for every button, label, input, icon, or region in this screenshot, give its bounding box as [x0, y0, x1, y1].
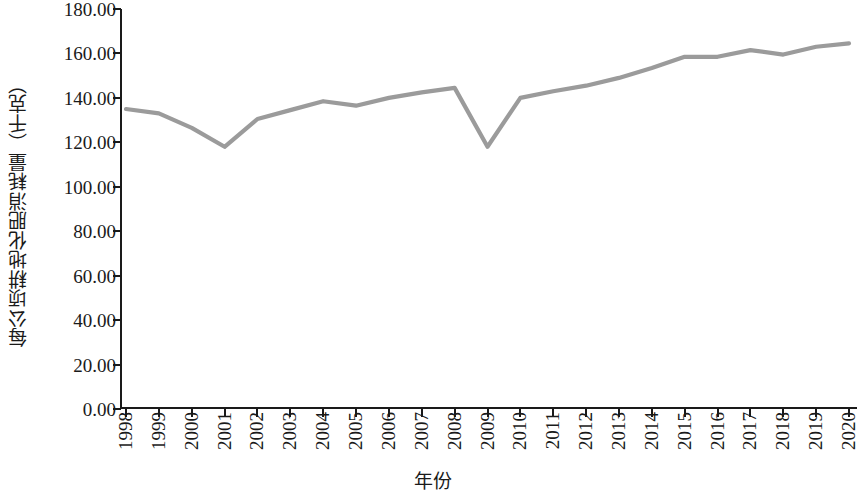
- line-chart: 每公顷耕地化肥消耗量（千克） 0.0020.0040.0060.0080.001…: [0, 0, 865, 490]
- x-axis-title: 年份: [0, 466, 865, 490]
- x-tick-label: 2003: [280, 412, 299, 450]
- x-tick-label: 2018: [773, 412, 792, 450]
- x-tick-label: 2006: [379, 412, 398, 450]
- x-tick-label: 2010: [510, 412, 529, 450]
- x-tick-label: 2019: [806, 412, 825, 450]
- x-tick-label: 2011: [543, 412, 562, 449]
- x-tick-label: 2002: [247, 412, 266, 450]
- series-polyline: [126, 43, 849, 146]
- x-tick-label: 2008: [445, 412, 464, 450]
- x-tick-label: 2007: [412, 412, 431, 450]
- y-tick-mark: [113, 141, 121, 143]
- x-tick-label: 2015: [675, 412, 694, 450]
- y-tick-label: 20.00: [30, 356, 116, 375]
- x-tick-label: 2016: [708, 412, 727, 450]
- x-tick-label: 2020: [839, 412, 858, 450]
- y-tick-mark: [113, 275, 121, 277]
- y-tick-label: 0.00: [30, 400, 116, 419]
- x-tick-label: 2012: [576, 412, 595, 450]
- x-tick-label: 2017: [740, 412, 759, 450]
- x-tick-label: 2009: [478, 412, 497, 450]
- x-tick-label: 2000: [182, 412, 201, 450]
- x-tick-label: 2013: [609, 412, 628, 450]
- y-tick-mark: [113, 8, 121, 10]
- y-tick-mark: [113, 230, 121, 232]
- y-tick-mark: [113, 408, 121, 410]
- y-tick-label: 60.00: [30, 267, 116, 286]
- y-tick-label: 180.00: [30, 0, 116, 19]
- x-tick-label: 1999: [149, 412, 168, 450]
- data-series-line: [120, 9, 857, 409]
- y-tick-label: 100.00: [30, 178, 116, 197]
- x-tick-label: 2004: [313, 412, 332, 450]
- y-tick-mark: [113, 364, 121, 366]
- x-tick-label: 2005: [346, 412, 365, 450]
- y-tick-label: 40.00: [30, 311, 116, 330]
- y-axis-tick-labels: 0.0020.0040.0060.0080.00100.00120.00140.…: [28, 0, 116, 490]
- y-tick-label: 120.00: [30, 133, 116, 152]
- plot-area: [120, 9, 857, 409]
- y-tick-mark: [113, 186, 121, 188]
- y-tick-mark: [113, 52, 121, 54]
- x-tick-label: 2014: [642, 412, 661, 450]
- y-tick-mark: [113, 319, 121, 321]
- x-tick-label: 1998: [116, 412, 135, 450]
- y-tick-mark: [113, 97, 121, 99]
- y-tick-label: 160.00: [30, 44, 116, 63]
- y-tick-label: 140.00: [30, 89, 116, 108]
- y-axis-title-text: 每公顷耕地化肥消耗量（千克）: [4, 74, 31, 347]
- x-tick-label: 2001: [215, 412, 234, 450]
- y-tick-label: 80.00: [30, 222, 116, 241]
